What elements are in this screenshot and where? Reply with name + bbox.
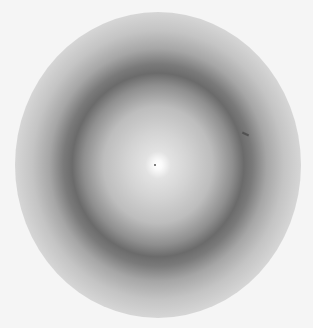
center-beam-spot [154,164,156,166]
image-frame: Circular X-ray diffraction pattern with … [0,0,313,328]
diffraction-pattern [15,12,301,318]
